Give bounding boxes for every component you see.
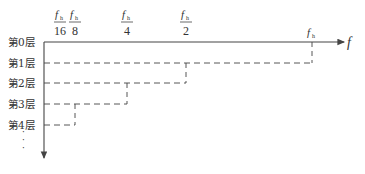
mark-denominator: 2	[183, 24, 189, 38]
layer-label: 第1层	[8, 57, 35, 69]
mark-subscript: h	[60, 15, 63, 21]
frequency-mark: fh	[307, 26, 315, 39]
layer-label: 第3层	[8, 98, 35, 110]
layer-label: 第0层	[8, 36, 35, 48]
frequency-mark: fh2	[180, 8, 192, 38]
frequency-axis-label: f	[347, 35, 353, 50]
mark-subscript: h	[75, 15, 78, 21]
mark-subscript: h	[312, 33, 315, 39]
mark-denominator: 4	[124, 24, 130, 38]
mark-subscript: h	[186, 15, 189, 21]
frequency-mark: fh8	[69, 8, 81, 38]
frequency-mark: fh4	[121, 8, 133, 38]
mark-denominator: 8	[72, 24, 78, 38]
frequency-mark: fh16	[54, 8, 66, 38]
wavelet-layer-diagram: f fh16fh8fh4fh2fh 第0层第1层第2层第3层第4层 · · ·	[0, 0, 365, 174]
mark-subscript: h	[127, 15, 130, 21]
continuation-dots: ·	[22, 143, 25, 153]
layer-label: 第2层	[8, 77, 35, 89]
mark-denominator: 16	[54, 24, 66, 38]
